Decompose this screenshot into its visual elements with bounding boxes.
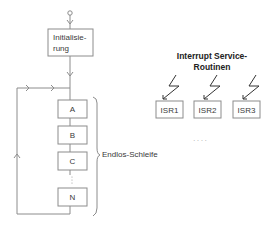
isr-2: ISR2 <box>194 75 221 118</box>
init-label-1: Initialisie- <box>53 33 87 42</box>
start-node <box>68 11 72 15</box>
isr-label: ISR2 <box>199 106 217 115</box>
isr-label: ISR3 <box>238 106 256 115</box>
step-label: A <box>70 105 76 114</box>
step-label: N <box>70 193 76 202</box>
isr-ellipsis: . . . . <box>193 135 207 142</box>
init-block: Initialisie- rung <box>48 29 93 56</box>
interrupt-title-2: Routinen <box>194 62 231 72</box>
step-label: C <box>70 157 76 166</box>
init-label-2: rung <box>53 44 69 53</box>
interrupt-title-1: Interrupt Service- <box>177 51 248 61</box>
step-label: B <box>70 131 75 140</box>
isr-3: ISR3 <box>233 75 260 118</box>
flow-diagram: Initialisie- rung A B C N Endlos-Schleif… <box>0 0 272 227</box>
step-ellipsis <box>71 176 72 183</box>
lightning-icon <box>163 75 179 99</box>
step-c: C <box>58 152 87 170</box>
step-n: N <box>58 188 87 206</box>
lightning-icon <box>204 75 220 99</box>
loop-brace <box>93 97 100 216</box>
loop-label: Endlos-Schleife <box>102 150 158 159</box>
step-a: A <box>58 100 87 118</box>
isr-1: ISR1 <box>156 75 183 118</box>
lightning-icon <box>243 75 259 99</box>
step-b: B <box>58 126 87 144</box>
isr-label: ISR1 <box>161 106 179 115</box>
